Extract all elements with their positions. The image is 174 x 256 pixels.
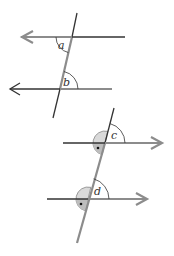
angle-b-label: b bbox=[63, 76, 70, 89]
top-transversal-lower bbox=[53, 89, 60, 118]
angle-c-label: c bbox=[111, 129, 117, 142]
dot-icon bbox=[97, 147, 100, 150]
top-figure: a b bbox=[10, 13, 125, 118]
dot-icon bbox=[80, 203, 83, 206]
angle-d-label: d bbox=[94, 185, 101, 198]
bottom-figure: c d bbox=[47, 108, 162, 243]
angle-a-label: a bbox=[58, 39, 65, 52]
top-transversal-upper bbox=[72, 13, 77, 37]
angle-diagram: a b c d bbox=[0, 0, 174, 256]
